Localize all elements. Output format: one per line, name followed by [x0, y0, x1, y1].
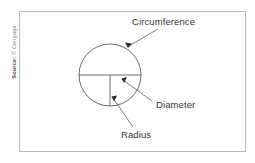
figure-root: Source: © Cengage Circumference Diameter…: [0, 0, 255, 163]
diameter-leader-line: [123, 80, 152, 101]
label-radius: Radius: [121, 129, 151, 140]
label-circumference: Circumference: [132, 16, 195, 27]
label-diameter: Diameter: [156, 99, 195, 110]
radius-leader-line: [113, 98, 133, 127]
radius-arrowhead-icon: [112, 96, 118, 102]
circumference-leader-line: [129, 29, 158, 46]
